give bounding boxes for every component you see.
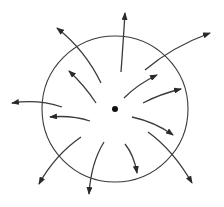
diagram-canvas bbox=[0, 0, 224, 207]
arrow-lower-middle bbox=[89, 142, 104, 194]
arrow-lower-right-short bbox=[132, 117, 173, 135]
center-point bbox=[112, 106, 118, 112]
arrow-upper-left-long bbox=[57, 28, 101, 83]
arrow-upper-left-short bbox=[69, 71, 96, 103]
arrow-right-short bbox=[143, 89, 181, 103]
arrow-upper-right-long bbox=[145, 33, 210, 70]
arrow-left-short bbox=[50, 117, 90, 122]
radial-field-diagram bbox=[0, 0, 224, 207]
arrow-left-long bbox=[12, 102, 62, 107]
arrow-top bbox=[121, 13, 125, 72]
arrow-upper-right-short bbox=[124, 75, 157, 98]
arrow-lower-left-long bbox=[39, 137, 81, 184]
arrow-lower-short bbox=[125, 144, 137, 173]
